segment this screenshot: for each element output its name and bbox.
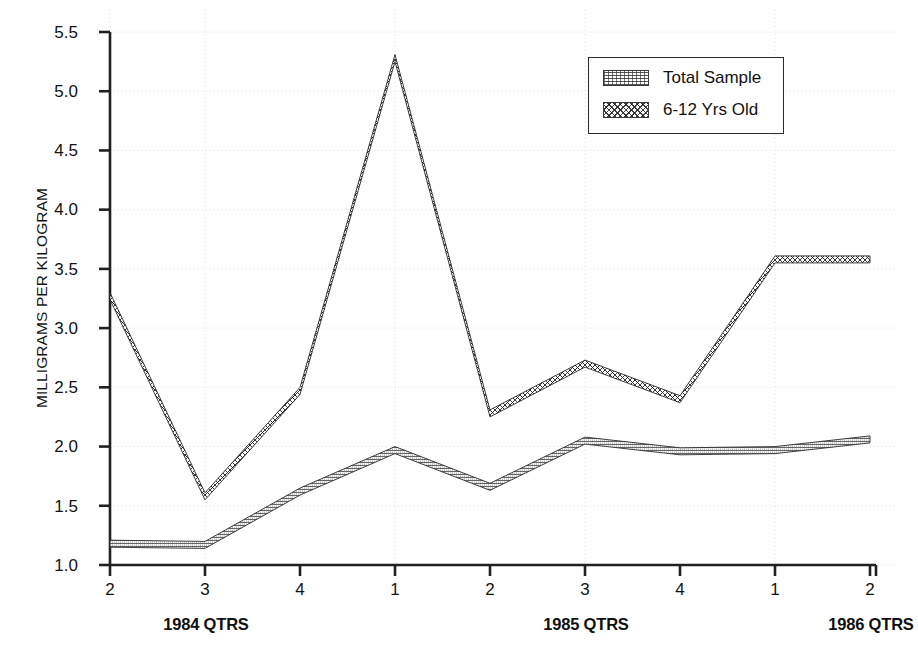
y-tick-label: 5.5 [30, 24, 78, 41]
y-tick-label: 3.5 [30, 261, 78, 278]
x-tick-label: 3 [565, 581, 605, 598]
x-tick-label: 2 [470, 581, 510, 598]
x-tick-label: 2 [850, 581, 890, 598]
x-tick-label: 1 [755, 581, 795, 598]
x-group-label-1985: 1985 QTRS [486, 616, 686, 633]
x-tick-label: 1 [375, 581, 415, 598]
y-tick-label: 1.5 [30, 498, 78, 515]
y-tick-label: 1.0 [30, 557, 78, 574]
y-tick-label: 4.0 [30, 201, 78, 218]
x-tick-label: 2 [90, 581, 130, 598]
x-tick-label: 3 [185, 581, 225, 598]
legend-label-6-12-yrs-old: 6-12 Yrs Old [663, 100, 758, 120]
legend-label-total-sample: Total Sample [663, 68, 761, 88]
y-tick-label: 5.0 [30, 83, 78, 100]
legend-item-6-12-yrs-old: 6-12 Yrs Old [603, 98, 758, 122]
x-tick-label: 4 [280, 581, 320, 598]
y-tick-label: 2.5 [30, 379, 78, 396]
y-tick-label: 2.0 [30, 438, 78, 455]
legend-item-total-sample: Total Sample [603, 66, 761, 90]
bottom-caption [60, 643, 860, 653]
legend-swatch-total-sample [603, 70, 649, 86]
y-tick-label: 4.5 [30, 142, 78, 159]
legend-swatch-6-12-yrs-old [603, 102, 649, 118]
x-group-label-1984: 1984 QTRS [106, 616, 306, 633]
legend: Total Sample 6-12 Yrs Old [588, 57, 784, 134]
x-group-label-1986: 1986 QTRS [771, 616, 918, 633]
y-tick-label: 3.0 [30, 320, 78, 337]
x-tick-label: 4 [660, 581, 700, 598]
